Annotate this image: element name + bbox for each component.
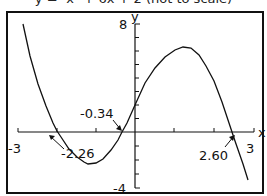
arrow-head-icon <box>116 125 122 131</box>
root-label-3: 2.60 <box>199 148 228 163</box>
x-min-label: -3 <box>8 141 21 156</box>
y-min-label: -4 <box>113 181 126 196</box>
x-axis-label: x <box>258 125 266 140</box>
root-label-1: -2.26 <box>61 146 95 161</box>
function-plot: x y -3 3 8 -4 -2.26 -0.34 2.60 <box>0 0 267 196</box>
y-max-label: 8 <box>119 17 127 32</box>
y-axis-label: y <box>131 9 139 24</box>
root-label-2: -0.34 <box>80 106 114 121</box>
y-ticks <box>135 24 140 188</box>
x-max-label: 3 <box>246 141 254 156</box>
